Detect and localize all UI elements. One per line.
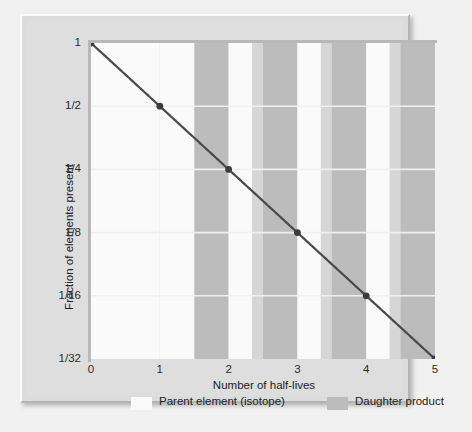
chart-legend: Parent element (isotope) Daughter produc… (39, 394, 395, 410)
legend-label-daughter: Daughter product (355, 394, 444, 408)
x-axis-tick-label: 2 (217, 363, 241, 375)
y-axis-tick-label: 1/32 (59, 353, 81, 364)
x-axis-tick-label: 1 (148, 363, 172, 375)
y-axis-tick-label: 1 (75, 37, 81, 48)
y-axis-tick-label: 1/4 (65, 163, 81, 174)
x-axis-tick-label: 3 (285, 363, 309, 375)
y-axis-tick-label: 1/16 (59, 290, 81, 301)
x-axis-tick-label: 5 (423, 363, 447, 375)
y-axis-tick-label: 1/2 (65, 100, 81, 111)
x-axis-tick-label: 4 (354, 363, 378, 375)
legend-item-parent: Parent element (isotope) (131, 394, 285, 410)
figure-inner-surface: Fraction of elements present 11/21/41/81… (27, 21, 403, 396)
y-axis-tick-labels: 11/21/41/81/161/32 (27, 21, 85, 381)
figure-panel: Fraction of elements present 11/21/41/81… (20, 14, 410, 403)
legend-item-daughter: Daughter product (327, 394, 444, 410)
y-axis-tick-label: 1/8 (65, 227, 81, 238)
x-axis-title: Number of half-lives (91, 379, 437, 391)
plot-area (91, 43, 435, 359)
decay-curve-plot (91, 43, 435, 359)
x-axis-tick-label: 0 (79, 363, 103, 375)
legend-label-parent: Parent element (isotope) (159, 394, 285, 408)
legend-swatch-parent (131, 397, 152, 410)
legend-swatch-daughter (327, 397, 348, 410)
